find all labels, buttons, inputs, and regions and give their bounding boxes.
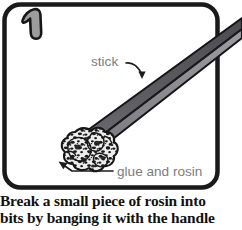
label-glue-and-rosin-text: glue and rosin <box>117 164 202 179</box>
illustration-drawing: stick glue and rosin <box>0 0 242 192</box>
illustration-panel: stick glue and rosin <box>0 0 242 192</box>
label-stick-text: stick <box>91 54 118 69</box>
caption-line-1: Break a small piece of rosin into <box>0 192 242 209</box>
instruction-figure: stick glue and rosin Break a small piece… <box>0 0 242 230</box>
figure-caption: Break a small piece of rosin into bits b… <box>0 192 242 226</box>
caption-line-2: bits by banging it with the handle <box>0 209 242 226</box>
glue-and-rosin-blob <box>62 128 118 171</box>
